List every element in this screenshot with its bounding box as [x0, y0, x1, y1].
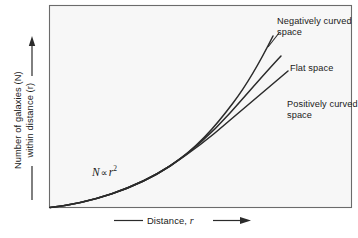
y-axis-label-line2: within distance (r)	[25, 83, 35, 158]
power-law-lhs: N	[92, 166, 100, 178]
x-axis-label: Distance, r	[147, 215, 194, 226]
label-negatively-curved-space: Negatively curved space	[277, 16, 355, 39]
power-law-exponent: 2	[113, 164, 117, 173]
x-axis-arrow-icon	[213, 217, 251, 224]
proportional-to-icon: ∝	[100, 167, 109, 178]
y-axis-label-line1: Number of galaxies (N)	[13, 71, 23, 169]
x-axis-label-variable: r	[190, 215, 194, 226]
label-positively-curved-space: Positively curved space	[287, 99, 358, 122]
x-axis-label-text: Distance,	[147, 215, 190, 226]
figure-container: Negatively curved space Flat space Posit…	[0, 0, 358, 238]
label-flat-space: Flat space	[290, 63, 333, 74]
y-axis-label: Number of galaxies (N) within distance (…	[12, 40, 36, 200]
annotation-power-law: N∝r2	[92, 163, 117, 178]
